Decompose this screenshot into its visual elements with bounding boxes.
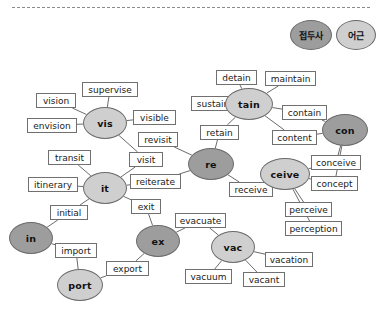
word-box-vacation[interactable]: vacation [265,252,313,267]
edge-port-import [77,258,78,269]
edge-vac-evacuate [210,228,219,235]
morpheme-node-tain[interactable]: tain [225,88,273,120]
word-box-maintain[interactable]: maintain [265,71,316,86]
word-box-vacant[interactable]: vacant [243,272,285,287]
morpheme-node-port[interactable]: port [57,269,103,301]
word-box-supervise[interactable]: supervise [82,82,138,97]
edge-re-receive [228,175,239,182]
word-box-retain[interactable]: retain [200,125,239,140]
word-box-itinerary[interactable]: itinerary [28,177,78,192]
word-box-vacuum[interactable]: vacuum [185,269,232,284]
morpheme-node-vac[interactable]: vac [211,231,255,263]
edge-re-revisit [174,147,192,155]
word-box-detain[interactable]: detain [216,70,257,85]
word-box-initial[interactable]: initial [50,205,88,220]
word-box-content[interactable]: content [272,130,317,145]
edge-ex-exit [149,214,153,225]
edge-tain-contain [272,108,282,109]
edge-tain-retain [227,117,235,125]
word-box-envision[interactable]: envision [27,118,77,133]
edge-vac-vacation [254,252,265,254]
word-box-perception[interactable]: perception [285,221,342,236]
edge-vac-vacant [246,260,257,272]
edge-vis-visit [119,135,138,152]
edge-vac-vacuum [215,261,222,269]
morpheme-node-con[interactable]: con [322,114,368,146]
morpheme-node-ex[interactable]: ex [136,225,180,257]
morpheme-node-re[interactable]: re [188,148,234,180]
edge-ex-evacuate [176,228,185,232]
word-box-visible[interactable]: visible [133,110,176,125]
word-box-vision[interactable]: vision [36,93,76,108]
morpheme-node-in[interactable]: in [9,222,53,254]
edge-vis-vision [72,108,86,114]
edge-tain-maintain [267,86,279,93]
word-root-diagram: 접두사어근 supervisevisionenvisionvisiblerevi… [0,0,383,313]
edge-it-transit [78,165,91,176]
word-box-export[interactable]: export [106,261,149,276]
morpheme-node-ceive[interactable]: ceive [260,158,310,190]
word-box-evacuate[interactable]: evacuate [175,213,226,228]
morpheme-node-it[interactable]: it [83,172,127,204]
word-box-reiterate[interactable]: reiterate [130,174,181,189]
legend-item-prefix: 접두사 [290,20,332,50]
word-box-transit[interactable]: transit [48,150,91,165]
word-box-contain[interactable]: contain [282,105,327,120]
edge-port-export [101,276,106,278]
edge-re-retain [215,140,217,148]
morpheme-node-vis[interactable]: vis [83,107,127,139]
edge-ex-export [136,253,144,261]
word-box-import[interactable]: import [55,243,97,258]
word-box-concept[interactable]: concept [311,176,358,191]
word-box-conceive[interactable]: conceive [311,155,361,170]
edge-in-initial [47,220,58,227]
word-box-revisit[interactable]: revisit [138,132,178,147]
word-box-perceive[interactable]: perceive [285,202,332,217]
legend-item-root: 어근 [336,20,376,50]
word-box-exit[interactable]: exit [131,199,161,214]
edge-it-exit [124,196,131,199]
edge-vis-supervise [107,97,109,107]
word-box-visit[interactable]: visit [129,152,163,167]
